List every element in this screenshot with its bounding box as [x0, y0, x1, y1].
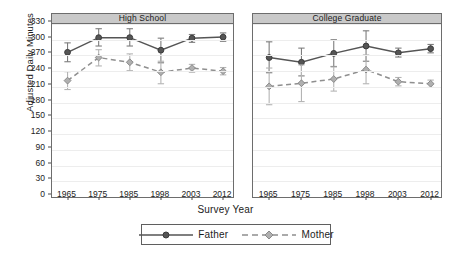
y-tick-label: 60	[36, 158, 45, 167]
series-svg-college-graduate	[253, 24, 443, 197]
y-tick-label: 30	[36, 174, 45, 183]
x-tick-label: 1998	[356, 190, 375, 199]
y-tick-label: 240	[31, 64, 45, 73]
chart-legend: Father Mother	[141, 224, 331, 245]
x-tick-label: 1985	[323, 190, 342, 199]
x-axis-title: Survey Year	[0, 204, 451, 215]
legend-swatch-father-icon	[138, 229, 194, 241]
gridline	[52, 118, 233, 119]
gridline	[52, 181, 233, 182]
x-tick-label: 2003	[182, 190, 201, 199]
data-point-mother	[395, 78, 402, 85]
x-tick-label: 1985	[119, 190, 138, 199]
data-point-mother	[330, 76, 337, 83]
data-point-father	[428, 46, 434, 52]
gridline	[52, 134, 233, 135]
x-tick-label: 1998	[150, 190, 169, 199]
gridline	[253, 55, 441, 56]
series-line-father	[269, 46, 431, 62]
y-axis-tick-labels: 0306090120150180210240270300330	[22, 20, 48, 198]
x-tick-label: 2012	[213, 190, 232, 199]
legend-entry-mother: Mother	[241, 229, 333, 241]
gridline	[52, 71, 233, 72]
x-axis-tick-labels-college-graduate: 196519751985199820032012	[252, 190, 442, 201]
y-tick-label: 0	[40, 190, 45, 199]
legend-label-father: Father	[198, 229, 228, 240]
gridline	[253, 181, 441, 182]
gridline	[253, 24, 441, 25]
series-svg-high-school	[52, 24, 235, 197]
y-tick-label: 120	[31, 127, 45, 136]
data-point-father	[363, 43, 369, 49]
gridline	[253, 166, 441, 167]
y-tick-label: 90	[36, 143, 45, 152]
gridline	[253, 87, 441, 88]
x-tick-label: 1975	[88, 190, 107, 199]
gridline	[253, 118, 441, 119]
chart-figure: Adjusted Daily Minutes 03060901201501802…	[0, 0, 451, 259]
data-point-mother	[298, 80, 305, 87]
panel-title-high-school: High School	[51, 13, 234, 24]
plot-area-college-graduate	[252, 24, 442, 198]
x-axis-tick-labels-high-school: 196519751985199820032012	[51, 190, 234, 201]
plot-area-high-school	[51, 24, 234, 198]
gridline	[253, 71, 441, 72]
gridline	[52, 24, 233, 25]
panel-title-college-graduate: College Graduate	[252, 13, 442, 24]
y-tick-label: 180	[31, 95, 45, 104]
y-tick-label: 150	[31, 111, 45, 120]
gridline	[253, 103, 441, 104]
x-tick-label: 2012	[420, 190, 439, 199]
gridline	[52, 55, 233, 56]
legend-swatch-mother-icon	[241, 229, 297, 241]
data-point-mother	[126, 59, 133, 66]
data-point-father	[158, 47, 164, 53]
y-tick-label: 330	[31, 17, 45, 26]
legend-entry-father: Father	[138, 229, 228, 241]
gridline	[52, 166, 233, 167]
gridline	[253, 40, 441, 41]
gridline	[52, 40, 233, 41]
gridline	[52, 150, 233, 151]
x-tick-label: 1965	[57, 190, 76, 199]
x-tick-label: 1975	[291, 190, 310, 199]
data-point-father	[65, 49, 71, 55]
x-tick-label: 2003	[388, 190, 407, 199]
y-tick-label: 300	[31, 32, 45, 41]
gridline	[52, 87, 233, 88]
legend-label-mother: Mother	[301, 229, 333, 240]
y-tick-label: 210	[31, 80, 45, 89]
panel-college-graduate: College Graduate	[252, 13, 442, 198]
data-point-mother	[157, 69, 164, 76]
y-tick-label: 270	[31, 48, 45, 57]
gridline	[52, 103, 233, 104]
gridline	[253, 150, 441, 151]
x-tick-label: 1965	[259, 190, 278, 199]
data-point-father	[299, 59, 305, 65]
gridline	[253, 134, 441, 135]
panel-high-school: High School	[51, 13, 234, 198]
series-line-mother	[68, 58, 224, 81]
